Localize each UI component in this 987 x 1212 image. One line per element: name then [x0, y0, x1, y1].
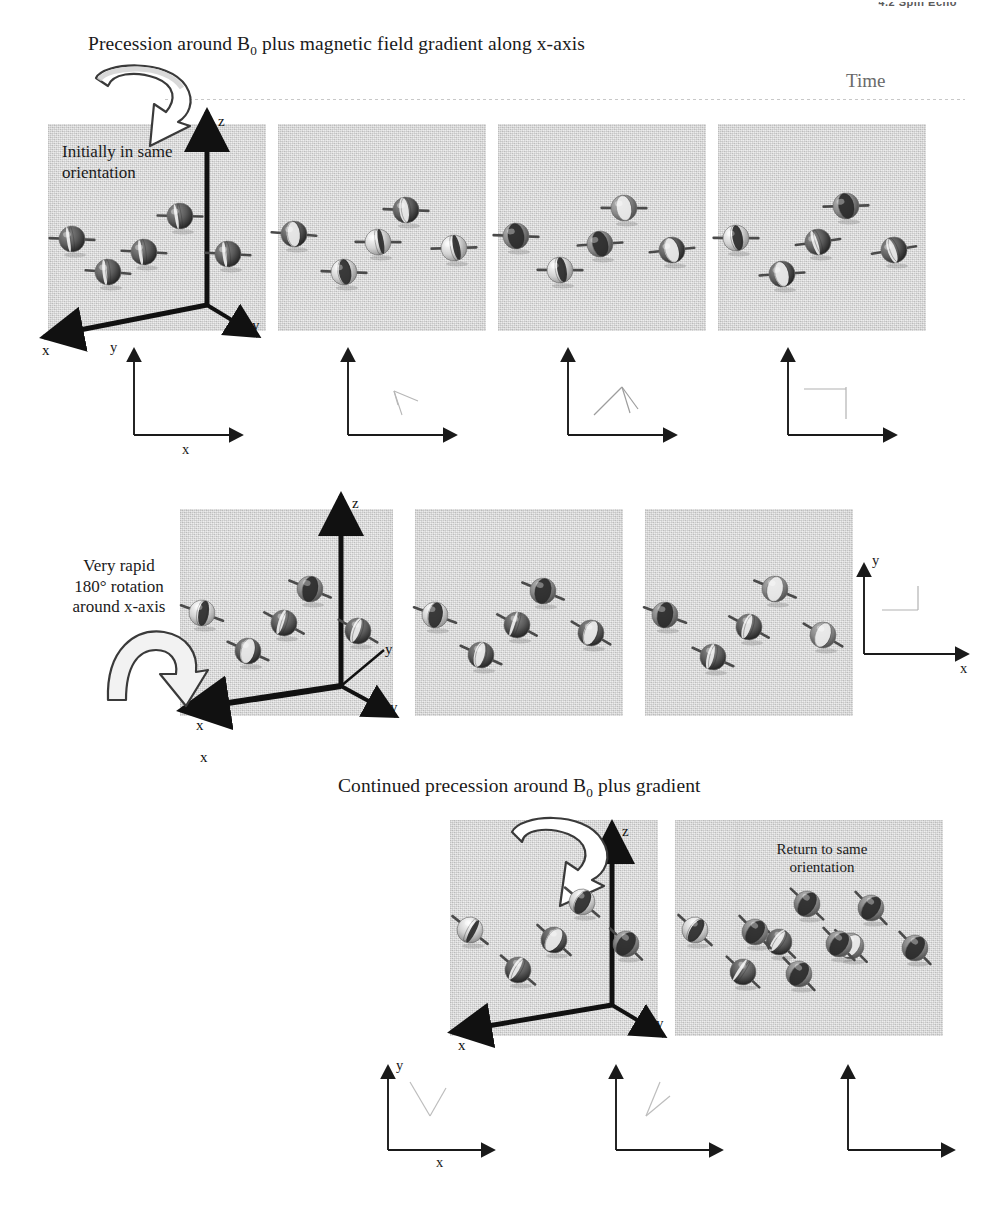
row3-heading-part2: plus gradient [593, 775, 701, 796]
inset-r3i2-svg [608, 1060, 778, 1160]
panel-r3p1 [450, 820, 658, 1036]
running-header: 4.2 Spin Echo [878, 0, 957, 10]
time-label: Time [846, 70, 885, 92]
time-axis-line [165, 99, 965, 100]
axis-label-x-r2: x [196, 717, 204, 733]
row1-heading-part1: Precession around B [88, 33, 250, 54]
annotation-return-line1: Return to same [742, 840, 902, 858]
panel-r1p3 [498, 124, 706, 331]
inset-r2i1-ylabel: y [872, 552, 879, 569]
row3-heading: Continued precession around B0 plus grad… [338, 775, 701, 801]
axis-label-x-r1: x [42, 342, 50, 358]
axis-label-x-r3: x [458, 1037, 466, 1053]
inset-r1i3-svg [560, 343, 760, 443]
panel-r2p1 [180, 509, 393, 716]
annotation-initially: Initially in same orientation [62, 142, 172, 183]
inset-r2i1-xlabel: x [960, 660, 967, 677]
row1-heading-subscript: 0 [250, 43, 257, 58]
inset-r3i1-svg [380, 1060, 550, 1160]
panel-r1p4 [718, 124, 926, 331]
annotation-return: Return to same orientation [742, 840, 902, 877]
inset-r2i1-svg [856, 556, 986, 666]
annotation-initially-line2: orientation [62, 163, 172, 184]
axis-label-x-outer-r2: x [200, 749, 208, 765]
inset-r3i1-ylabel: y [396, 1057, 403, 1074]
inset-r3i3 [840, 1060, 987, 1164]
inset-r1i1-xlabel: x [182, 441, 189, 458]
annotation-return-line2: orientation [742, 858, 902, 876]
inset-r1i1: y x [126, 343, 326, 447]
panel-r1p2 [278, 124, 486, 331]
inset-r1i1-ylabel: y [110, 339, 117, 356]
annotation-initially-line1: Initially in same [62, 142, 172, 163]
inset-r1i2 [340, 343, 540, 447]
inset-r3i3-svg [840, 1060, 987, 1160]
inset-r3i1: y x [380, 1060, 550, 1164]
row3-heading-subscript: 0 [586, 785, 593, 800]
row1-heading-part2: plus magnetic field gradient along x-axi… [257, 33, 585, 54]
inset-r1i4 [780, 343, 980, 447]
inset-r1i3 [560, 343, 760, 447]
inset-r2i1: y x [856, 556, 986, 670]
inset-r1i2-svg [340, 343, 540, 443]
panel-r2p3 [645, 509, 853, 716]
row1-heading: Precession around B0 plus magnetic field… [88, 33, 585, 59]
inset-r1i1-svg [126, 343, 326, 443]
inset-r3i1-xlabel: x [436, 1154, 443, 1171]
inset-r1i4-svg [780, 343, 980, 443]
row3-heading-part1: Continued precession around B [338, 775, 586, 796]
panel-r2p2 [415, 509, 623, 716]
inset-r3i2 [608, 1060, 778, 1164]
